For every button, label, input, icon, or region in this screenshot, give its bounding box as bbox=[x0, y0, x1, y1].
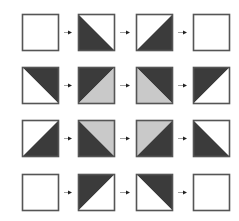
square-cell bbox=[136, 67, 173, 104]
arrow-right-icon bbox=[64, 137, 72, 141]
square-cell bbox=[78, 174, 115, 211]
arrow-right-icon bbox=[120, 84, 130, 88]
diagram-row bbox=[22, 14, 230, 51]
square-cell bbox=[78, 14, 115, 51]
diagram-row bbox=[22, 67, 230, 104]
arrow-right-icon bbox=[178, 137, 187, 141]
square-cell bbox=[78, 67, 115, 104]
square-cell bbox=[136, 120, 173, 157]
arrow-right-icon bbox=[120, 191, 130, 195]
arrow-right-icon bbox=[120, 137, 130, 141]
square-cell bbox=[193, 174, 230, 211]
square-cell bbox=[136, 174, 173, 211]
triangle-transition-diagram bbox=[0, 0, 239, 221]
arrow-right-icon bbox=[120, 31, 130, 35]
arrow-right-icon bbox=[64, 191, 72, 195]
arrow-right-icon bbox=[64, 31, 72, 35]
diagram-row bbox=[22, 174, 230, 211]
arrow-right-icon bbox=[178, 191, 187, 195]
square-cell bbox=[136, 14, 173, 51]
arrow-right-icon bbox=[64, 84, 72, 88]
square-cell bbox=[193, 67, 230, 104]
square-cell bbox=[193, 14, 230, 51]
square-cell bbox=[22, 174, 59, 211]
arrow-right-icon bbox=[178, 31, 187, 35]
square-cell bbox=[22, 120, 59, 157]
square-cell bbox=[22, 14, 59, 51]
square-cell bbox=[78, 120, 115, 157]
square-cell bbox=[22, 67, 59, 104]
arrow-right-icon bbox=[178, 84, 187, 88]
diagram-canvas bbox=[0, 0, 239, 221]
diagram-row bbox=[22, 120, 230, 157]
square-cell bbox=[193, 120, 230, 157]
